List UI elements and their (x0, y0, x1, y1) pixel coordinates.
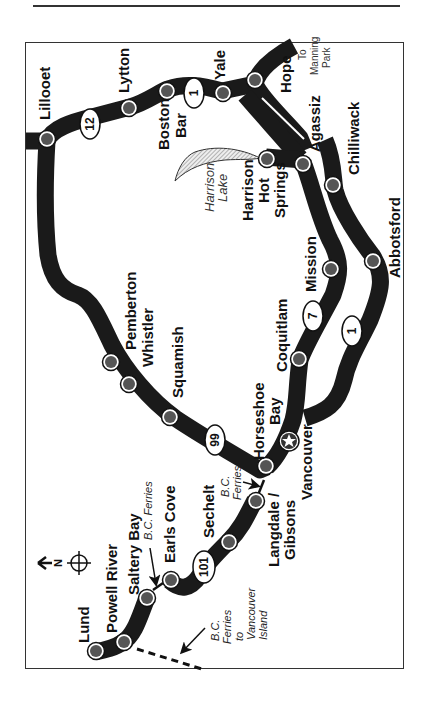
label-yale: Yale (211, 50, 228, 80)
ferry-arrow-sb (150, 548, 156, 584)
label-abbotsford: Abbotsford (386, 197, 403, 278)
dot-lund[interactable] (88, 643, 105, 660)
label-ferry-vi-4: Vancouver (245, 586, 257, 640)
road-hwy99 (45, 141, 267, 470)
label-horseshoe-2: Bay (266, 397, 283, 425)
label-chilliwack: Chilliwack (345, 101, 362, 175)
dot-abbotsford[interactable] (365, 253, 382, 270)
dot-pemberton[interactable] (103, 354, 120, 371)
dot-hope[interactable] (247, 72, 264, 89)
dot-yale[interactable] (215, 85, 232, 102)
dot-chilliwack[interactable] (325, 177, 342, 194)
ferry-arrow-hb (243, 482, 258, 486)
svg-text:99: 99 (208, 433, 222, 447)
label-horseshoe-1: Horseshoe (250, 382, 267, 460)
label-manning-2: Manning (309, 37, 320, 75)
ferry-saltery-earls (153, 583, 163, 590)
dot-coquitlam[interactable] (291, 351, 308, 368)
dot-langdale-gibsons[interactable] (248, 493, 265, 510)
label-ferry-vi-2: Ferries (221, 609, 233, 644)
svg-text:12: 12 (83, 117, 97, 131)
label-harrison-2: Hot (255, 178, 272, 203)
label-pemberton: Pemberton (122, 272, 139, 350)
shield-hwy99: 99 (205, 425, 225, 455)
dot-lytton[interactable] (121, 100, 138, 117)
label-agassiz: Agassiz (306, 95, 323, 152)
label-lund: Lund (75, 606, 92, 643)
label-langdale-2: Gibsons (281, 500, 298, 560)
svg-text:1: 1 (345, 327, 359, 334)
dot-powell-river[interactable] (116, 634, 133, 651)
dot-agassiz[interactable] (295, 156, 312, 173)
label-boston-bar-1: Boston (155, 98, 172, 150)
north-indicator: N (38, 551, 91, 575)
shield-hwy101: 101 (193, 551, 215, 583)
label-boston-bar-2: Bar (172, 113, 189, 138)
label-mission: Mission (302, 236, 319, 292)
label-ferry-hb-1: B.C. (219, 476, 231, 497)
svg-text:7: 7 (306, 312, 320, 319)
dot-sechelt[interactable] (221, 534, 238, 551)
label-ferry-vi-3: to (233, 632, 245, 641)
label-manning-3: Park (321, 46, 332, 68)
label-squamish: Squamish (169, 326, 186, 398)
label-harrison-1: Harrison (239, 159, 256, 221)
svg-text:N: N (52, 559, 64, 567)
label-ferry-sb: B.C. Ferries (142, 481, 154, 540)
svg-text:101: 101 (197, 557, 211, 577)
label-ferry-hb-2: Ferries (231, 465, 243, 500)
route-map: 12 1 99 7 1 101 N (0, 0, 428, 707)
label-powell-river: Powell River (103, 544, 120, 633)
dot-boston-bar[interactable] (159, 83, 176, 100)
label-langdale-1: Langdale / (265, 492, 282, 567)
shield-hwy12: 12 (80, 109, 100, 139)
dot-lillooet[interactable] (39, 131, 56, 148)
label-manning-1: To (297, 49, 308, 60)
label-saltery-bay: Saltery Bay (125, 513, 142, 595)
ferry-vancouver-island (137, 649, 205, 670)
label-ferry-vi-1: B.C. (209, 620, 221, 641)
label-vancouver: Vancouver (298, 424, 315, 500)
dot-earls-cove[interactable] (163, 572, 180, 589)
dot-squamish[interactable] (162, 409, 179, 426)
svg-text:1: 1 (187, 89, 201, 96)
shield-hwy1-south: 1 (342, 316, 362, 346)
shield-hwy1-north: 1 (184, 78, 204, 108)
dot-vancouver[interactable] (279, 431, 299, 451)
label-harrison-3: Springs (271, 162, 288, 218)
compass-icon (67, 551, 91, 575)
label-earls-cove: Earls Cove (161, 485, 178, 563)
dot-mission[interactable] (323, 261, 340, 278)
label-hope: Hope (277, 56, 294, 94)
north-arrow-icon (38, 557, 52, 569)
label-coquitlam: Coquitlam (273, 299, 290, 372)
label-lytton: Lytton (115, 48, 132, 93)
label-lillooet: Lillooet (36, 67, 53, 120)
label-sechelt: Sechelt (200, 485, 217, 538)
dot-whistler[interactable] (121, 376, 138, 393)
label-whistler: Whistler (139, 308, 156, 367)
label-ferry-vi-5: Island (257, 610, 269, 640)
label-harrison-lake-2: Lake (215, 174, 230, 202)
ferry-arrow-vi (182, 628, 205, 652)
shield-hwy7: 7 (303, 301, 323, 331)
